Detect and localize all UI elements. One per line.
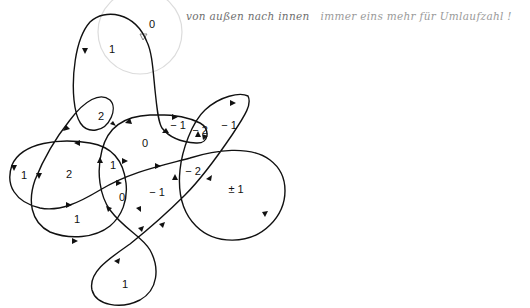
region-label: 1 xyxy=(21,169,27,181)
arrow-icon xyxy=(66,202,72,208)
arrow-icon xyxy=(122,158,128,164)
arrow-icon xyxy=(159,222,165,228)
arrow-icon xyxy=(116,180,122,186)
arrow-icon xyxy=(155,163,161,169)
region-label: 0 xyxy=(119,191,125,203)
note-end: immer eins mehr für Umlaufzahl ! xyxy=(321,10,512,22)
region-label: 1 xyxy=(109,43,115,55)
region-label: 0 xyxy=(149,18,155,30)
arrow-icon xyxy=(136,206,141,212)
region-label: − 2 xyxy=(185,165,201,177)
region-label: 2 xyxy=(66,168,72,180)
arrow-icon xyxy=(172,174,178,180)
reference-circle xyxy=(98,0,182,74)
arrow-icon xyxy=(114,258,120,264)
closed-curve xyxy=(10,14,285,305)
arrow-icon xyxy=(138,226,144,232)
arrow-icon xyxy=(72,238,78,244)
diagram-canvas: 0 1 2 0 − 1 − 2 − 1 1 2 1 0 − 1 − 2 ± 1 … xyxy=(0,0,530,308)
handwritten-note: von außen nach innen immer eins mehr für… xyxy=(186,10,512,22)
arrow-icon xyxy=(97,157,103,163)
note-start: von außen nach innen xyxy=(186,10,310,22)
region-label: 1 xyxy=(110,159,116,171)
region-label: − 2 xyxy=(192,124,208,136)
region-label: 1 xyxy=(74,213,80,225)
arrow-icon xyxy=(206,175,212,181)
region-label: 0 xyxy=(142,137,148,149)
arrow-icon xyxy=(82,48,88,54)
region-label: 1 xyxy=(122,278,128,290)
arrow-icon xyxy=(230,100,236,106)
region-label: 2 xyxy=(98,110,104,122)
region-label: − 1 xyxy=(149,186,165,198)
arrow-icon xyxy=(11,165,17,171)
region-label: − 1 xyxy=(221,119,237,131)
region-label: − 1 xyxy=(170,119,186,131)
region-labels: 0 1 2 0 − 1 − 2 − 1 1 2 1 0 − 1 − 2 ± 1 … xyxy=(21,18,244,290)
arrow-icon xyxy=(110,121,116,126)
region-label: ± 1 xyxy=(228,183,243,195)
arrow-icon xyxy=(262,211,268,217)
